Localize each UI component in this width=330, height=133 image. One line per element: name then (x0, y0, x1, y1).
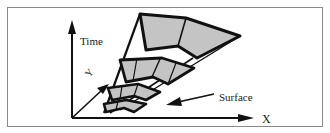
y-axis (72, 90, 102, 118)
surface-diagram (0, 0, 330, 133)
surface-layer-top (140, 14, 240, 58)
surface-arrow-icon (166, 97, 182, 106)
x-arrow-icon (238, 114, 254, 122)
x-axis-label: X (262, 113, 271, 125)
surface-layer-bottom (104, 100, 146, 112)
surface-label: Surface (219, 92, 253, 103)
time-axis-label: Time (80, 36, 103, 47)
time-arrow-icon (68, 20, 76, 34)
surface-layer-middle (120, 58, 194, 84)
surface-pointer (166, 94, 214, 106)
